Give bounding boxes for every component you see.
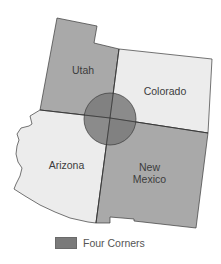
label-new-mexico: New Mexico	[127, 162, 172, 185]
label-utah: Utah	[68, 65, 98, 77]
label-colorado: Colorado	[140, 86, 190, 98]
legend-swatch-four-corners	[55, 237, 77, 249]
label-arizona: Arizona	[44, 160, 89, 172]
legend: Four Corners	[55, 236, 145, 249]
four-corners-map	[0, 0, 221, 264]
legend-label-four-corners: Four Corners	[83, 237, 145, 249]
